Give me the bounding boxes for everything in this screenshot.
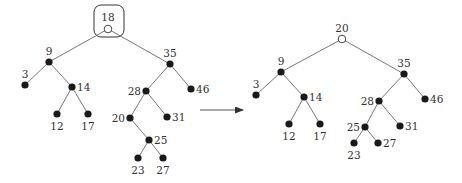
after-node-12: 12 — [282, 120, 295, 142]
hollow-node-icon — [338, 35, 346, 43]
node-label: 28 — [361, 95, 374, 107]
before-edge — [25, 62, 49, 85]
before-node-35: 35 — [163, 47, 176, 68]
filled-node-icon — [134, 154, 141, 161]
filled-node-icon — [53, 110, 60, 117]
node-label: 31 — [172, 111, 185, 123]
filled-node-icon — [163, 113, 170, 120]
node-label: 31 — [405, 120, 418, 132]
node-label: 46 — [430, 93, 444, 105]
filled-node-icon — [300, 93, 307, 100]
node-label: 35 — [397, 57, 410, 69]
node-label: 23 — [131, 164, 144, 176]
filled-node-icon — [396, 122, 403, 129]
before-node-20: 20 — [112, 112, 134, 124]
node-label: 14 — [309, 91, 323, 103]
filled-node-icon — [145, 136, 152, 143]
after-node-46: 46 — [421, 93, 443, 105]
after-tree: 209353142846121725312327 — [252, 22, 443, 161]
bst-deletion-diagram: 18935314284612172031252327 2093531428461… — [0, 0, 462, 183]
after-edge — [256, 72, 281, 95]
filled-node-icon — [142, 87, 149, 94]
node-label: 17 — [313, 130, 326, 142]
filled-node-icon — [187, 85, 194, 92]
after-edge — [404, 74, 425, 99]
after-node-23: 23 — [347, 139, 360, 161]
after-edge — [281, 72, 304, 97]
filled-node-icon — [375, 97, 382, 104]
before-edge — [57, 87, 72, 114]
before-node-27: 27 — [156, 154, 169, 176]
node-label: 25 — [347, 121, 360, 133]
node-label: 27 — [156, 164, 169, 176]
hollow-node-icon — [104, 25, 112, 33]
after-node-35: 35 — [397, 57, 410, 78]
before-node-23: 23 — [131, 154, 144, 176]
node-label: 3 — [22, 68, 29, 80]
after-edge — [289, 97, 304, 124]
filled-node-icon — [285, 120, 292, 127]
after-node-28: 28 — [361, 95, 383, 107]
before-node-9: 9 — [45, 45, 52, 66]
filled-node-icon — [252, 91, 259, 98]
node-label: 3 — [253, 78, 260, 90]
before-node-46: 46 — [187, 83, 209, 95]
after-edge — [342, 39, 404, 74]
node-label: 18 — [101, 11, 114, 23]
after-node-3: 3 — [252, 78, 259, 99]
filled-node-icon — [126, 114, 133, 121]
filled-node-icon — [277, 68, 284, 75]
after-node-27: 27 — [374, 137, 396, 149]
node-label: 14 — [77, 81, 91, 93]
filled-node-icon — [350, 139, 357, 146]
filled-node-icon — [421, 95, 428, 102]
node-label: 28 — [128, 85, 141, 97]
node-label: 20 — [112, 112, 125, 124]
after-edge — [379, 74, 404, 101]
after-node-25: 25 — [347, 121, 369, 133]
before-node-28: 28 — [128, 85, 150, 97]
before-edge — [49, 62, 72, 87]
node-label: 17 — [81, 120, 94, 132]
filled-node-icon — [21, 81, 28, 88]
filled-node-icon — [400, 70, 407, 77]
node-label: 23 — [347, 149, 360, 161]
before-edge — [170, 64, 191, 89]
before-node-12: 12 — [50, 110, 63, 132]
node-label: 9 — [278, 55, 285, 67]
before-edge — [130, 118, 149, 140]
after-edge — [379, 101, 400, 126]
filled-node-icon — [45, 58, 52, 65]
node-label: 25 — [154, 134, 167, 146]
before-edge — [146, 64, 170, 91]
after-node-17: 17 — [313, 120, 326, 142]
before-node-14: 14 — [68, 81, 90, 93]
node-label: 9 — [46, 45, 53, 57]
node-label: 12 — [50, 120, 63, 132]
before-tree: 18935314284612172031252327 — [21, 5, 209, 176]
node-label: 35 — [163, 47, 176, 59]
before-node-3: 3 — [21, 68, 28, 89]
node-label: 20 — [335, 22, 348, 34]
node-label: 27 — [383, 137, 396, 149]
after-node-31: 31 — [396, 120, 418, 132]
filled-node-icon — [166, 60, 173, 67]
before-node-31: 31 — [163, 111, 185, 123]
filled-node-icon — [361, 123, 368, 130]
filled-node-icon — [84, 110, 91, 117]
before-edge — [146, 91, 167, 117]
filled-node-icon — [159, 154, 166, 161]
node-label: 12 — [282, 130, 295, 142]
after-edge — [281, 39, 342, 72]
before-node-17: 17 — [81, 110, 94, 132]
filled-node-icon — [374, 139, 381, 146]
after-node-14: 14 — [300, 91, 322, 103]
before-edge — [108, 29, 170, 64]
after-node-20: 20 — [335, 22, 348, 43]
before-node-18: 18 — [101, 11, 114, 33]
before-edge — [49, 29, 108, 62]
filled-node-icon — [68, 83, 75, 90]
node-label: 46 — [196, 83, 210, 95]
filled-node-icon — [316, 120, 323, 127]
after-node-9: 9 — [277, 55, 284, 76]
